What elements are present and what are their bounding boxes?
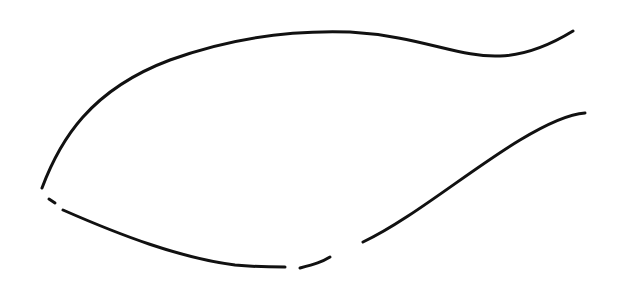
mouth-dash [49, 199, 55, 203]
lower-dash-tail-right [300, 257, 330, 268]
upper-body-curve [42, 31, 573, 188]
lower-body-curve [63, 210, 285, 267]
lower-right-curve [363, 113, 585, 242]
fish-outline-drawing [0, 0, 636, 288]
